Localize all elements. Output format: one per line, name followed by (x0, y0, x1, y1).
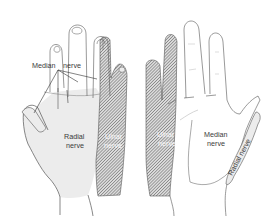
palmar-palm-outline (170, 96, 260, 216)
label-radial-palmar: Radial nerve (226, 137, 253, 177)
label-radial-dorsal-1: Radial (64, 132, 85, 141)
palm-crease (180, 110, 198, 120)
label-median-palmar-2: nerve (207, 139, 225, 148)
label-ulnar-palmar-1: Ulnar (157, 130, 175, 139)
index-nail (54, 46, 60, 52)
label-ulnar-dorsal-1: Ulnar (105, 132, 123, 141)
dorsal-hand: Median nerve Radial nerve Ulnar nerve (22, 25, 127, 216)
middle-nail (72, 27, 82, 34)
little-nail (119, 67, 125, 72)
palmar-middle-finger (184, 21, 205, 98)
label-radial-dorsal-2: nerve (66, 141, 84, 150)
middle-base (184, 97, 194, 98)
middle-joint-2 (189, 69, 196, 70)
label-ulnar-dorsal-2: nerve (104, 141, 122, 150)
label-median-palmar-1: Median (204, 130, 228, 139)
palmar-hand: Ulnar nerve Median nerve Radial nerve (146, 21, 260, 216)
ulnar-region-dorsal (96, 37, 127, 196)
palmar-index-finger (209, 33, 227, 100)
ulnar-region-palmar (146, 35, 177, 197)
nerve-distribution-diagram: Median nerve Radial nerve Ulnar nerve Ul… (0, 0, 277, 217)
label-median-nerve-word: nerve (63, 61, 81, 70)
label-ulnar-palmar-2: nerve (158, 139, 176, 148)
radial-region-dorsal (23, 88, 100, 198)
label-median-dorsal: Median (32, 61, 56, 70)
index-base (206, 95, 216, 96)
